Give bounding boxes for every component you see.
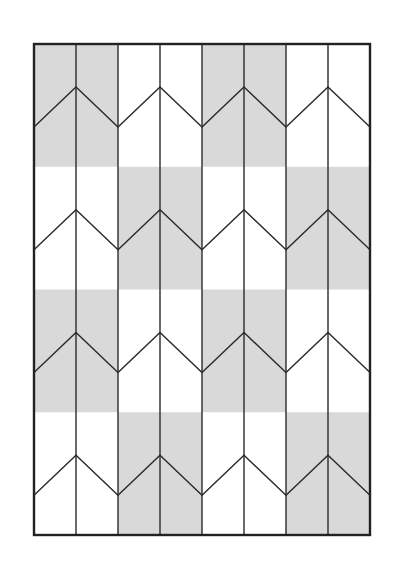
chevron-pattern-diagram [0, 0, 401, 579]
